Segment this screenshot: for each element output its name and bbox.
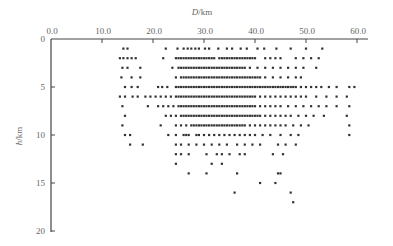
data-point (188, 115, 190, 117)
data-point (269, 57, 271, 59)
data-point (302, 67, 304, 69)
data-point (157, 105, 159, 107)
data-point (208, 115, 210, 117)
data-point (290, 192, 292, 194)
data-point (254, 86, 256, 88)
data-point (241, 86, 243, 88)
data-point (251, 86, 253, 88)
data-point (336, 86, 338, 88)
data-point (262, 86, 264, 88)
data-point (267, 86, 269, 88)
data-point (195, 57, 197, 59)
data-point (190, 115, 192, 117)
data-point (175, 144, 177, 146)
data-point (251, 144, 253, 146)
data-point (218, 144, 220, 146)
data-point (216, 86, 218, 88)
data-point (239, 96, 241, 98)
data-point (221, 105, 223, 107)
data-point (180, 144, 182, 146)
data-point (277, 172, 279, 174)
data-point (223, 57, 225, 59)
data-point (325, 96, 327, 98)
data-point (239, 57, 241, 59)
data-point (198, 76, 200, 78)
data-point (256, 115, 258, 117)
data-point (269, 124, 271, 126)
data-point (295, 76, 297, 78)
data-point (244, 96, 246, 98)
data-point (216, 96, 218, 98)
data-point (236, 172, 238, 174)
data-point (166, 86, 168, 88)
data-point (208, 96, 210, 98)
data-point (216, 153, 218, 155)
data-point (162, 57, 164, 59)
data-point (218, 115, 220, 117)
data-point (185, 86, 187, 88)
data-point (269, 115, 271, 117)
data-point (231, 105, 233, 107)
data-point (290, 96, 292, 98)
data-point (175, 57, 177, 59)
data-point (205, 153, 207, 155)
data-point (208, 134, 210, 136)
data-point (180, 124, 182, 126)
data-point (246, 48, 248, 50)
data-point (279, 67, 281, 69)
data-point (126, 48, 128, 50)
data-point (204, 48, 206, 50)
data-point (183, 105, 185, 107)
data-point (249, 67, 251, 69)
data-point (336, 105, 338, 107)
data-point (249, 96, 251, 98)
data-point (300, 76, 302, 78)
data-point (236, 67, 238, 69)
data-point (165, 96, 167, 98)
data-point (348, 134, 350, 136)
data-point (188, 105, 190, 107)
data-point (228, 124, 230, 126)
data-point (231, 124, 233, 126)
data-point (213, 76, 215, 78)
data-point (285, 144, 287, 146)
data-point (244, 105, 246, 107)
data-point (315, 96, 317, 98)
data-point (183, 86, 185, 88)
data-point (279, 124, 281, 126)
x-axis-title: D/km (191, 7, 213, 17)
data-point (249, 86, 251, 88)
data-point (211, 57, 213, 59)
data-point (175, 153, 177, 155)
data-point (274, 86, 276, 88)
data-point (167, 134, 169, 136)
data-point (272, 153, 274, 155)
data-point (193, 67, 195, 69)
data-point (234, 134, 236, 136)
data-point (285, 96, 287, 98)
data-point (211, 96, 213, 98)
data-point (290, 86, 292, 88)
data-point (203, 115, 205, 117)
data-point (279, 86, 281, 88)
data-point (180, 105, 182, 107)
data-point (157, 86, 159, 88)
data-point (241, 96, 243, 98)
data-point (292, 86, 294, 88)
data-point (195, 144, 197, 146)
data-point (241, 67, 243, 69)
data-point (185, 67, 187, 69)
data-point (234, 76, 236, 78)
data-point (231, 96, 233, 98)
data-point (198, 105, 200, 107)
data-point (175, 124, 177, 126)
data-point (226, 67, 228, 69)
data-point (290, 134, 292, 136)
data-point (124, 134, 126, 136)
data-point (183, 67, 185, 69)
data-point (213, 67, 215, 69)
data-point (310, 105, 312, 107)
data-point (167, 105, 169, 107)
data-point (131, 57, 133, 59)
data-point (221, 153, 223, 155)
